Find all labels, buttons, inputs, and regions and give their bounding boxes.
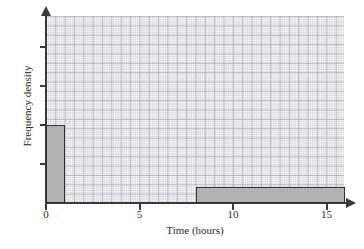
- histogram-figure: 051015 Time (hours) Frequency density: [0, 0, 364, 249]
- x-axis-tick-label: 0: [31, 208, 61, 221]
- y-axis-title: Frequency density: [21, 36, 33, 176]
- y-axis-arrow-icon: [41, 6, 51, 16]
- x-axis-tick-label: 5: [125, 208, 155, 221]
- x-axis-title: Time (hours): [46, 224, 344, 236]
- x-axis-tick-label: 15: [312, 208, 342, 221]
- plot-grid-area: [46, 16, 344, 203]
- x-axis-tick-label: 10: [218, 208, 248, 221]
- histogram-bar: [46, 125, 65, 203]
- y-axis-tick: [40, 85, 46, 87]
- x-axis-arrow-icon: [346, 198, 356, 208]
- y-axis-tick: [40, 46, 46, 48]
- histogram-bar: [196, 187, 346, 203]
